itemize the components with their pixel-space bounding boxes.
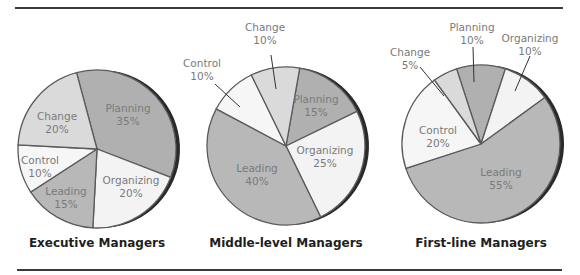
chart-title-first-line: First-line Managers: [396, 236, 566, 250]
pie-charts-figure: Planning35%Organizing20%Leading15%Contro…: [0, 0, 580, 275]
slice-label-change: Change5%: [390, 46, 430, 71]
pie-chart-executive: Planning35%Organizing20%Leading15%Contro…: [18, 70, 180, 228]
slice-label-planning: Planning10%: [449, 21, 494, 46]
chart-title-middle-level: Middle-level Managers: [196, 236, 376, 250]
chart-title-executive: Executive Managers: [17, 236, 177, 250]
pie-chart-middle-level: Planning15%Organizing25%Leading40%Contro…: [183, 21, 369, 225]
slice-label-control: Control10%: [183, 57, 221, 82]
slice-label-organizing: Organizing10%: [502, 32, 559, 57]
pie-chart-first-line: Planning10%Organizing10%Leading55%Contro…: [390, 21, 564, 223]
slice-label-change: Change10%: [245, 21, 285, 46]
